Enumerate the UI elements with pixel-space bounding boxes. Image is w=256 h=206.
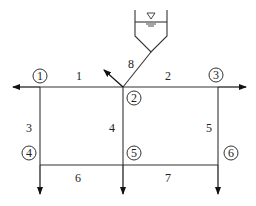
node-5: 5 xyxy=(127,146,141,160)
water-level-icon xyxy=(146,13,156,26)
node-label-2: 2 xyxy=(131,91,137,105)
reservoir-outline xyxy=(135,10,167,52)
pipe-label-6: 6 xyxy=(75,171,81,185)
node-6: 6 xyxy=(224,146,238,160)
pipe-label-4: 4 xyxy=(109,121,115,135)
node-label-5: 5 xyxy=(131,146,137,160)
node-1: 1 xyxy=(33,69,47,83)
node-label-3: 3 xyxy=(213,68,219,82)
node-label-1: 1 xyxy=(37,69,43,83)
node-label-6: 6 xyxy=(228,146,234,160)
outflow-arrow-node-2 xyxy=(104,70,123,87)
node-2: 2 xyxy=(127,91,141,105)
pipe-label-1: 1 xyxy=(76,69,82,83)
pipe-network-diagram: 1 2 3 4 5 6 7 8 1 2 3 4 5 6 xyxy=(0,0,256,206)
pipe-label-2: 2 xyxy=(165,69,171,83)
pipe-label-7: 7 xyxy=(165,171,171,185)
node-label-4: 4 xyxy=(26,146,32,160)
pipe-label-8: 8 xyxy=(128,57,134,71)
reservoir xyxy=(135,10,167,52)
pipe-label-5: 5 xyxy=(206,121,212,135)
pipe-label-3: 3 xyxy=(26,121,32,135)
node-3: 3 xyxy=(209,68,223,82)
node-4: 4 xyxy=(22,146,36,160)
